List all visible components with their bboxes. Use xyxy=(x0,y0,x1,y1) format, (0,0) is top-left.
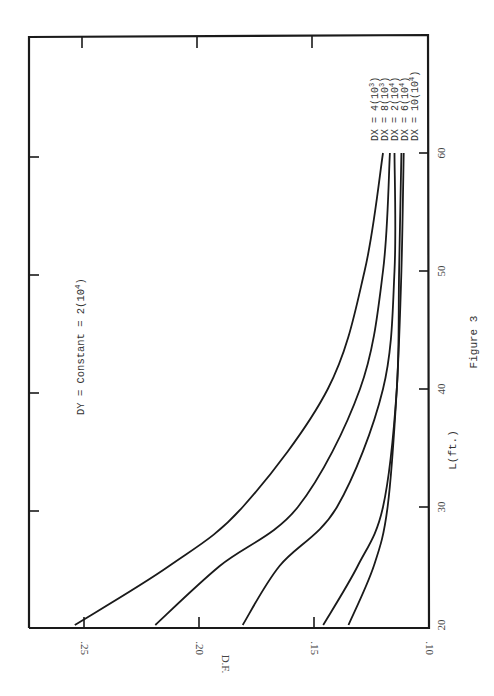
x-axis-label: L(ft.) xyxy=(447,430,459,470)
curve-series-2 xyxy=(155,153,390,625)
x-tick-label: 50 xyxy=(435,265,447,277)
chart: 2030405060.10.15.20.25 DX = 4(103)DX = 8… xyxy=(0,0,494,696)
y-tick-label: .15 xyxy=(309,641,321,655)
figure-caption: Figure 3 xyxy=(468,316,480,369)
x-tick-label: 60 xyxy=(435,147,447,159)
legend-entry: DX = 10(104) xyxy=(408,71,421,141)
y-tick-label: .25 xyxy=(79,641,91,655)
x-tick-label: 20 xyxy=(435,619,447,631)
plot-border xyxy=(29,35,429,628)
annotation-dy-constant: DY = Constant = 2(104) xyxy=(74,278,87,415)
axis-tick-labels: 2030405060.10.15.20.25 xyxy=(79,147,447,655)
curve-series-4 xyxy=(323,153,401,625)
y-axis-label: D.F. xyxy=(220,655,232,674)
curve-series-1 xyxy=(75,153,383,625)
x-tick-label: 40 xyxy=(435,383,447,395)
data-curves xyxy=(75,153,404,625)
legend: DX = 4(103)DX = 8(103)DX = 2(104)DX = 6(… xyxy=(368,71,421,141)
y-tick-label: .20 xyxy=(194,641,206,655)
axis-ticks xyxy=(29,36,429,628)
plot-frame xyxy=(29,35,429,628)
y-tick-label: .10 xyxy=(424,641,436,655)
x-tick-label: 30 xyxy=(435,501,447,513)
